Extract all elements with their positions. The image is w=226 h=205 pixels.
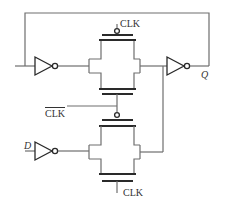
latch-diagram: CLK Q CLK D CLK (0, 0, 226, 205)
clk-label-bottom: CLK (123, 188, 143, 198)
q-output-label: Q (201, 70, 208, 80)
feedback-inverter (35, 57, 89, 75)
clk-bar-label: CLK (45, 109, 65, 119)
input-inverter (25, 142, 89, 160)
bottom-transmission-gate (89, 106, 163, 193)
top-transmission-gate (89, 24, 140, 106)
clk-label-top: CLK (120, 19, 140, 29)
d-input-label: D (24, 141, 31, 151)
circuit-schematic (0, 0, 226, 205)
output-path (140, 57, 209, 152)
